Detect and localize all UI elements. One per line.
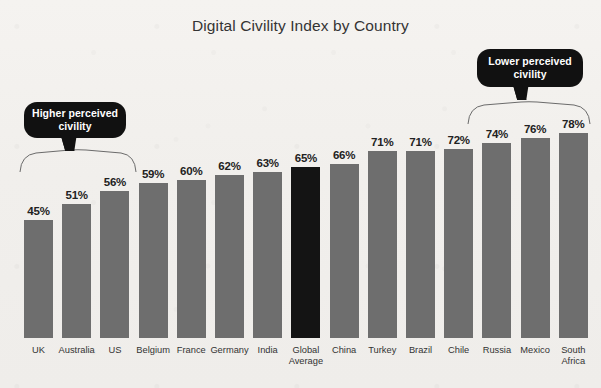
bar-category-label: Global Average: [289, 345, 323, 367]
bar-group[interactable]: 56%US: [100, 191, 129, 338]
bar-category-label: UK: [32, 345, 45, 356]
callout-higher-text: Higher perceived civility: [32, 107, 118, 133]
bar-category-label: Belgium: [136, 345, 170, 356]
bracket-lower-perceived-civility: [466, 100, 592, 126]
bar-group[interactable]: 72%Chile: [444, 149, 473, 338]
bar[interactable]: [24, 220, 53, 338]
bar[interactable]: [100, 191, 129, 338]
bar-category-label: China: [332, 345, 356, 356]
bar[interactable]: [406, 151, 435, 338]
bar-group[interactable]: 45%UK: [24, 220, 53, 338]
bar-value-label: 45%: [27, 205, 49, 217]
bar-group[interactable]: 60%France: [177, 180, 206, 338]
bar[interactable]: [177, 180, 206, 338]
bar-category-label: Brazil: [409, 345, 432, 356]
bar-value-label: 65%: [295, 152, 317, 164]
bar-value-label: 74%: [486, 128, 508, 140]
bar[interactable]: [521, 138, 550, 338]
bar[interactable]: [253, 172, 282, 338]
bar[interactable]: [368, 151, 397, 338]
bar-category-label: Russia: [483, 345, 511, 356]
bar-value-label: 66%: [333, 149, 355, 161]
bar-group[interactable]: 65%Global Average: [291, 167, 320, 338]
bar-group[interactable]: 59%Belgium: [139, 183, 168, 338]
bar[interactable]: [139, 183, 168, 338]
chart-container: Digital Civility Index by Country 45%UK5…: [0, 0, 601, 388]
bar[interactable]: [215, 175, 244, 338]
bar-category-label: Australia: [59, 345, 95, 356]
bar-value-label: 72%: [447, 134, 469, 146]
bar-group[interactable]: 74%Russia: [482, 143, 511, 338]
bar-highlighted[interactable]: [291, 167, 320, 338]
bar-category-label: Germany: [210, 345, 248, 356]
bar-value-label: 51%: [65, 189, 87, 201]
bar-category-label: Mexico: [520, 345, 549, 356]
callout-lower-text: Lower perceived civility: [485, 55, 575, 81]
bar-group[interactable]: 66%China: [330, 164, 359, 338]
bar-group[interactable]: 71%Turkey: [368, 151, 397, 338]
bar-value-label: 56%: [104, 176, 126, 188]
bar-category-label: Chile: [448, 345, 469, 356]
bar[interactable]: [62, 204, 91, 338]
bar-value-label: 59%: [142, 168, 164, 180]
bar-category-label: Turkey: [368, 345, 396, 356]
callout-higher-perceived-civility: Higher perceived civility: [24, 102, 126, 138]
bar[interactable]: [482, 143, 511, 338]
bracket-higher-perceived-civility: [18, 148, 138, 174]
bar-group[interactable]: 78%South Africa: [559, 133, 588, 338]
bar-group[interactable]: 71%Brazil: [406, 151, 435, 338]
bar-group[interactable]: 63%India: [253, 172, 282, 338]
bar-category-label: France: [177, 345, 206, 356]
bar-category-label: India: [258, 345, 278, 356]
bar-value-label: 71%: [371, 136, 393, 148]
bar[interactable]: [444, 149, 473, 338]
bar[interactable]: [330, 164, 359, 338]
bar-group[interactable]: 62%Germany: [215, 175, 244, 338]
bar-category-label: South Africa: [561, 345, 585, 367]
bar-group[interactable]: 76%Mexico: [521, 138, 550, 338]
bar-value-label: 62%: [218, 160, 240, 172]
bar-value-label: 63%: [256, 157, 278, 169]
bar-category-label: US: [108, 345, 121, 356]
callout-lower-perceived-civility: Lower perceived civility: [477, 49, 583, 87]
bar-value-label: 60%: [180, 165, 202, 177]
bar[interactable]: [559, 133, 588, 338]
bar-group[interactable]: 51%Australia: [62, 204, 91, 338]
bar-value-label: 71%: [409, 136, 431, 148]
